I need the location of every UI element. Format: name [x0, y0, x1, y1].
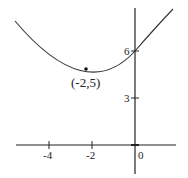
x-tick-label-0: 0 — [138, 149, 144, 161]
parabola-curve — [15, 9, 173, 72]
x-tick-label-neg2: -2 — [86, 149, 95, 161]
y-tick-label-6: 6 — [124, 45, 130, 57]
vertex-point — [84, 67, 88, 71]
x-tick-label-neg4: -4 — [43, 149, 53, 161]
y-tick-label-3: 3 — [124, 92, 130, 104]
vertex-label: (-2,5) — [71, 75, 100, 90]
parabola-chart: (-2,5) 6 3 -4 -2 0 — [0, 0, 188, 178]
